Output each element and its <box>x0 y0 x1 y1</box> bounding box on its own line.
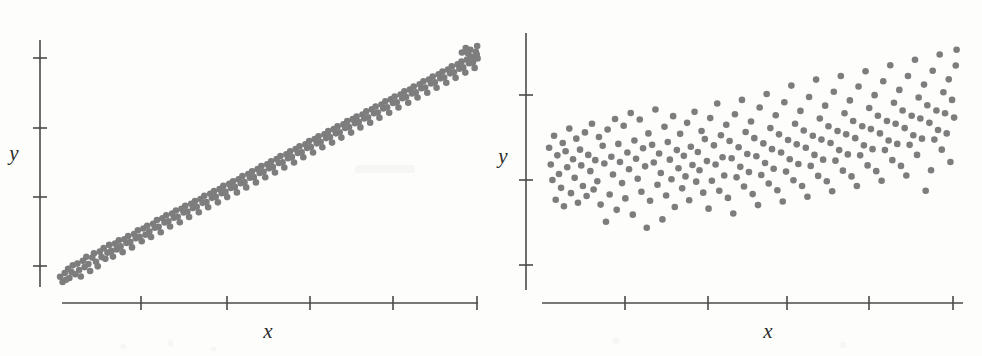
data-point <box>788 82 795 89</box>
data-point <box>546 144 553 151</box>
data-point <box>866 105 873 112</box>
data-point <box>110 253 117 260</box>
data-point <box>711 142 718 149</box>
data-point <box>884 118 891 125</box>
data-point <box>654 181 661 188</box>
data-point <box>315 133 322 140</box>
data-point <box>590 186 597 193</box>
data-point <box>182 203 189 210</box>
data-point <box>424 89 431 96</box>
data-point <box>712 161 719 168</box>
data-point <box>912 56 919 63</box>
data-point <box>733 174 740 181</box>
data-point <box>652 106 659 113</box>
data-point <box>781 99 788 106</box>
data-point <box>800 127 807 134</box>
data-point <box>631 137 638 144</box>
data-point <box>558 185 565 192</box>
data-point <box>933 107 940 114</box>
data-point <box>877 130 884 137</box>
data-point <box>834 128 841 135</box>
data-point <box>627 110 634 117</box>
data-point <box>772 112 779 119</box>
data-point <box>196 209 203 216</box>
data-point <box>850 118 857 125</box>
data-point <box>952 62 959 69</box>
data-point <box>376 114 383 121</box>
data-point <box>935 127 942 134</box>
data-point <box>106 242 113 249</box>
data-point <box>926 120 933 127</box>
data-point <box>559 140 566 147</box>
data-point <box>587 168 594 175</box>
data-point <box>163 212 170 219</box>
data-point <box>691 109 698 116</box>
data-point <box>622 195 629 202</box>
data-point <box>664 139 671 146</box>
data-point <box>700 189 707 196</box>
data-point <box>459 49 466 56</box>
panel-weak-association: y x <box>491 0 982 356</box>
data-point <box>924 102 931 109</box>
data-point <box>880 78 887 85</box>
data-point <box>448 63 455 70</box>
data-point <box>220 183 227 190</box>
data-point <box>334 123 341 130</box>
data-point <box>117 243 124 250</box>
data-point <box>551 132 558 139</box>
data-point <box>945 76 952 83</box>
data-point <box>675 165 682 172</box>
data-point <box>649 142 656 149</box>
data-point <box>917 115 924 122</box>
data-point <box>774 187 781 194</box>
data-point <box>730 210 737 217</box>
data-point <box>277 153 284 160</box>
data-point <box>914 152 921 159</box>
data-point <box>776 131 783 138</box>
data-point <box>642 163 649 170</box>
data-point <box>857 152 864 159</box>
data-point <box>887 62 894 69</box>
data-point <box>779 198 786 205</box>
data-point <box>878 177 885 184</box>
data-point <box>815 173 822 180</box>
data-point <box>892 121 899 128</box>
scatterplot-right: y x <box>491 0 982 356</box>
data-point <box>753 153 760 160</box>
data-point <box>620 122 627 129</box>
data-point <box>585 152 592 159</box>
data-point <box>670 113 677 120</box>
y-axis-label-left: y <box>7 141 19 165</box>
data-point <box>767 125 774 132</box>
data-point <box>663 192 670 199</box>
data-point <box>562 148 569 155</box>
data-point <box>803 144 810 151</box>
data-point <box>868 126 875 133</box>
data-point <box>215 199 222 206</box>
data-point <box>725 195 732 202</box>
data-point <box>580 183 587 190</box>
data-point <box>859 123 866 130</box>
data-point <box>785 137 792 144</box>
data-points-right <box>546 46 960 231</box>
data-point <box>723 121 730 128</box>
data-point <box>677 131 684 138</box>
data-point <box>681 153 688 160</box>
data-point <box>778 149 785 156</box>
data-point <box>643 224 650 231</box>
data-point <box>840 167 847 174</box>
data-point <box>947 159 954 166</box>
data-point <box>843 131 850 138</box>
data-point <box>615 141 622 148</box>
data-point <box>357 124 364 131</box>
data-point <box>83 254 90 261</box>
data-point <box>592 157 599 164</box>
data-point <box>704 158 711 165</box>
data-point <box>176 219 183 226</box>
data-point <box>714 100 721 107</box>
data-point <box>862 68 869 75</box>
data-point <box>847 97 854 104</box>
data-point <box>756 104 763 111</box>
panel-strong-association: y x <box>0 0 491 356</box>
data-point <box>951 114 958 121</box>
